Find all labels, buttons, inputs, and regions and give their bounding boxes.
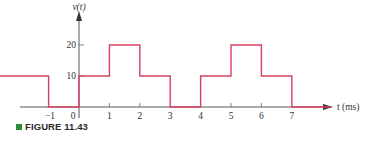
figure-caption: FIGURE 11.43 — [16, 121, 88, 132]
waveform-line — [0, 45, 331, 107]
x-axis-label: t (ms) — [337, 102, 359, 113]
svg-text:10: 10 — [67, 71, 77, 81]
caption-marker-icon — [16, 124, 22, 130]
y-axis-label: v(t) — [72, 2, 85, 13]
y-ticks — [79, 45, 84, 76]
caption-label: FIGURE 11.43 — [25, 121, 88, 132]
svg-text:0: 0 — [71, 111, 76, 121]
svg-text:7: 7 — [289, 111, 294, 121]
svg-text:−1: −1 — [45, 111, 55, 121]
svg-text:5: 5 — [229, 111, 234, 121]
svg-text:4: 4 — [198, 111, 203, 121]
svg-text:3: 3 — [168, 111, 173, 121]
y-tick-labels: 10 20 — [67, 40, 77, 81]
x-tick-labels: −1 0 1 2 3 4 5 6 7 — [45, 111, 294, 121]
y-axis-arrow-icon — [76, 11, 82, 21]
svg-text:20: 20 — [67, 40, 77, 50]
svg-text:2: 2 — [137, 111, 142, 121]
svg-text:1: 1 — [107, 111, 112, 121]
svg-text:6: 6 — [259, 111, 264, 121]
